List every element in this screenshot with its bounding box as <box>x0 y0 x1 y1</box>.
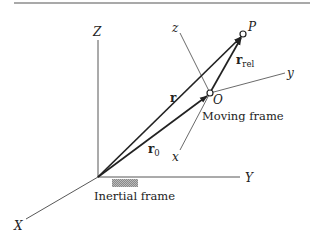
moving-axes <box>180 33 285 150</box>
z-axis <box>180 33 210 93</box>
reference-frames-diagram: Z Y X Inertial frame z y x O P Moving fr… <box>0 0 310 247</box>
ground-hatch <box>112 179 138 187</box>
y-axis-label: y <box>286 66 294 80</box>
point-P-label: P <box>247 20 257 34</box>
vector-r0-label: r0 <box>148 142 160 158</box>
moving-frame-label: Moving frame <box>202 109 284 123</box>
vector-rrel-label: rrel <box>236 53 254 69</box>
inertial-frame-label: Inertial frame <box>94 189 175 203</box>
Z-axis-label: Z <box>92 25 102 39</box>
X-axis <box>26 177 98 219</box>
X-axis-label: X <box>13 219 23 233</box>
vector-r-label: r <box>170 91 177 105</box>
y-axis <box>210 73 285 93</box>
z-axis-label: z <box>171 21 179 35</box>
vector-r0 <box>98 96 207 177</box>
vector-r <box>98 37 241 177</box>
point-P <box>240 31 246 37</box>
Y-axis-label: Y <box>245 171 254 185</box>
origin-O-label: O <box>213 93 223 107</box>
x-axis-label: x <box>172 150 179 164</box>
r0-sub: 0 <box>154 148 159 158</box>
rrel-sub: rel <box>242 59 254 69</box>
